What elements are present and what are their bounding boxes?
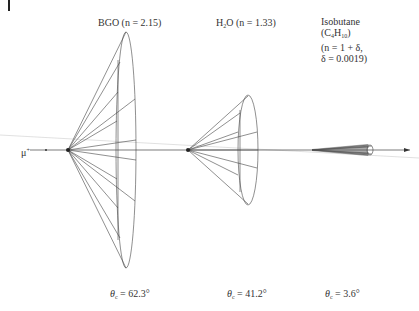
muon-label: μ+ — [21, 145, 30, 158]
h2o-label: H2O (n = 1.33) — [216, 17, 276, 32]
bgo-label: BGO (n = 2.15) — [98, 17, 161, 28]
isobutane-angle: θc = 3.6° — [325, 288, 360, 300]
isobutane-label: Isobutane (C4H10) (n = 1 + δ, δ = 0.0019… — [321, 16, 367, 64]
h2o-angle: θc = 41.2° — [227, 288, 267, 300]
track-arrow-icon — [404, 148, 410, 152]
h2o-cone — [188, 95, 258, 205]
bgo-angle: θc = 62.3° — [110, 288, 150, 300]
